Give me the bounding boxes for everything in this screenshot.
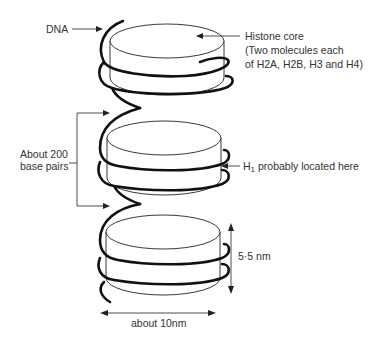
nucleosome-bottom — [99, 204, 229, 302]
height-label: 5·5 nm — [238, 250, 271, 262]
histone-core-middle-face — [107, 121, 221, 155]
linker-bracket — [77, 113, 104, 206]
nucleosome-diagram: DNA Histone core (Two molecules each of … — [0, 0, 378, 343]
linker-top-arrowhead-icon — [103, 110, 110, 116]
dna-label: DNA — [46, 23, 68, 35]
width-arrow-right-icon — [208, 310, 216, 316]
histone-core-detail-2: of H2A, H2B, H3 and H4) — [245, 58, 363, 70]
histone-core-bottom-face — [106, 215, 220, 249]
width-label: about 10nm — [131, 317, 187, 329]
linker-label-line-2: base pairs — [20, 160, 68, 172]
h1-label: H1 probably located here — [243, 160, 359, 174]
height-arrow-down-icon — [228, 286, 234, 294]
linker-label-line-1: About 200 — [20, 148, 68, 160]
linker-bottom-arrowhead-icon — [103, 203, 110, 209]
width-arrow-left-icon — [100, 310, 108, 316]
histone-core-label: Histone core — [245, 30, 304, 42]
dna-arrowhead-icon — [96, 26, 103, 32]
height-arrow-up-icon — [228, 223, 234, 231]
histone-core-top-face — [110, 24, 224, 58]
nucleosome-middle — [99, 108, 229, 204]
histone-core-detail-1: (Two molecules each — [245, 44, 344, 56]
nucleosome-top — [99, 21, 232, 108]
